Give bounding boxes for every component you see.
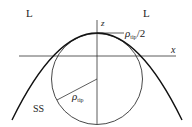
x-axis-label: x (170, 44, 176, 55)
radius-label: ρtip (71, 90, 84, 103)
z-axis-label: z (100, 18, 105, 28)
liquid-label-left: L (26, 7, 33, 19)
dendrite-tip-diagram: L L z x SS ρtip/2 ρtip (0, 0, 192, 127)
solid-label: SS (33, 103, 44, 114)
half-radius-label: ρtip/2 (124, 27, 145, 40)
liquid-label-right: L (143, 7, 150, 19)
